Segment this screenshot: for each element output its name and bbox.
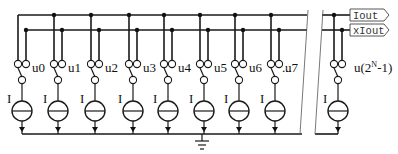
arrow-down-icon (92, 127, 98, 132)
dac-schematic: Iu0Iu1Iu2Iu3Iu4Iu5Iu6Iu7I Iout xIout ...… (0, 0, 398, 154)
arrow-down-icon (165, 127, 171, 132)
switch-pivot (334, 76, 341, 83)
junction-dot (162, 13, 166, 17)
port-xiout: xIout (350, 24, 389, 37)
switch-label: u3 (143, 60, 156, 75)
source-label: I (43, 91, 47, 106)
cell-3: Iu3 (118, 13, 156, 134)
switch-blade (18, 68, 22, 77)
switch-label: u1 (68, 60, 81, 75)
junction-dot (206, 28, 210, 32)
switch-terminal (22, 60, 29, 67)
cell-2: Iu2 (80, 13, 118, 134)
arrow-down-icon (130, 127, 136, 132)
source-label: I (153, 91, 157, 106)
arrow-down-icon (19, 127, 25, 132)
junction-dot (170, 28, 174, 32)
ground-icon (195, 134, 209, 149)
port-xiout-label: xIout (353, 25, 385, 37)
last-switch-label: u(2N-1) (354, 60, 392, 75)
switch-pivot (164, 76, 171, 83)
junction-dot (135, 28, 139, 32)
cell-6: Iu6 (224, 13, 263, 134)
arrow-down-icon (55, 127, 61, 132)
arrow-down-icon (201, 127, 207, 132)
switch-blade (54, 68, 58, 77)
cells: Iu0Iu1Iu2Iu3Iu4Iu5Iu6Iu7I (7, 13, 348, 134)
switch-pivot (129, 76, 136, 83)
junction-dot (198, 13, 202, 17)
arrow-down-icon (335, 127, 341, 132)
junction-dot (52, 13, 56, 17)
source-label: I (189, 91, 193, 106)
cell-4: Iu4 (153, 13, 192, 134)
junction-dot (24, 28, 28, 32)
switch-terminal (133, 60, 140, 67)
junction-dot (60, 28, 64, 32)
switch-pivot (200, 76, 207, 83)
switch-terminal (87, 60, 94, 67)
switch-terminal (168, 60, 175, 67)
switch-blade (235, 68, 239, 77)
junction-dot (89, 13, 93, 17)
ellipsis: ... (282, 60, 292, 75)
switch-terminal (267, 60, 274, 67)
break-line-right (315, 10, 323, 134)
source-label: I (118, 91, 122, 106)
junction-dot (269, 13, 273, 17)
junction-dot (340, 28, 344, 32)
arrow-down-icon (272, 127, 278, 132)
cell-7: Iu7 (260, 13, 299, 134)
junction-dot (233, 13, 237, 17)
cell-1: Iu1 (43, 13, 81, 134)
switch-label: u4 (178, 60, 192, 75)
switch-terminal (239, 60, 246, 67)
switch-terminal (50, 60, 57, 67)
switch-label: u0 (32, 60, 45, 75)
junction-dot (97, 28, 101, 32)
switch-blade (91, 68, 95, 77)
port-iout: Iout (350, 9, 389, 22)
junction-dot (127, 13, 131, 17)
switch-blade (271, 68, 275, 77)
switch-terminal (125, 60, 132, 67)
switch-blade (200, 68, 204, 77)
cell-0: Iu0 (7, 15, 45, 134)
switch-terminal (204, 60, 211, 67)
arrow-down-icon (236, 127, 242, 132)
source-label: I (7, 91, 11, 106)
port-iout-label: Iout (353, 10, 378, 22)
switch-pivot (18, 76, 25, 83)
switch-blade (129, 68, 133, 77)
switch-terminal (330, 60, 337, 67)
switch-terminal (14, 60, 21, 67)
switch-pivot (235, 76, 242, 83)
source-label: I (224, 91, 228, 106)
switch-pivot (91, 76, 98, 83)
cell-last: I (323, 13, 348, 134)
cell-5: Iu5 (189, 13, 227, 134)
switch-terminal (95, 60, 102, 67)
switch-blade (164, 68, 168, 77)
switch-terminal (160, 60, 167, 67)
break-marks (300, 10, 323, 134)
switch-pivot (54, 76, 61, 83)
switch-terminal (196, 60, 203, 67)
junction-dot (332, 13, 336, 17)
switch-terminal (58, 60, 65, 67)
junction-dot (277, 28, 281, 32)
source-label: I (260, 91, 264, 106)
switch-label: u6 (249, 60, 263, 75)
switch-blade (334, 68, 338, 77)
source-label: I (80, 91, 84, 106)
source-label: I (323, 91, 327, 106)
switch-terminal (231, 60, 238, 67)
junction-dot (241, 28, 245, 32)
switch-terminal (338, 60, 345, 67)
switch-label: u2 (105, 60, 118, 75)
break-line-left (300, 10, 308, 134)
switch-pivot (271, 76, 278, 83)
switch-label: u5 (214, 60, 227, 75)
